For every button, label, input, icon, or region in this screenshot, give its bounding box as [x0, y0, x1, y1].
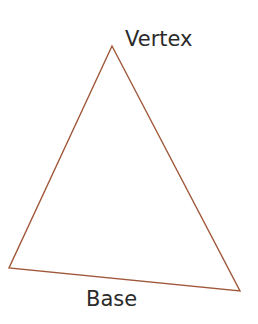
triangle-shape	[9, 46, 240, 291]
triangle-diagram: Vertex Base	[0, 0, 258, 324]
base-label: Base	[86, 287, 137, 311]
vertex-label: Vertex	[125, 27, 193, 51]
